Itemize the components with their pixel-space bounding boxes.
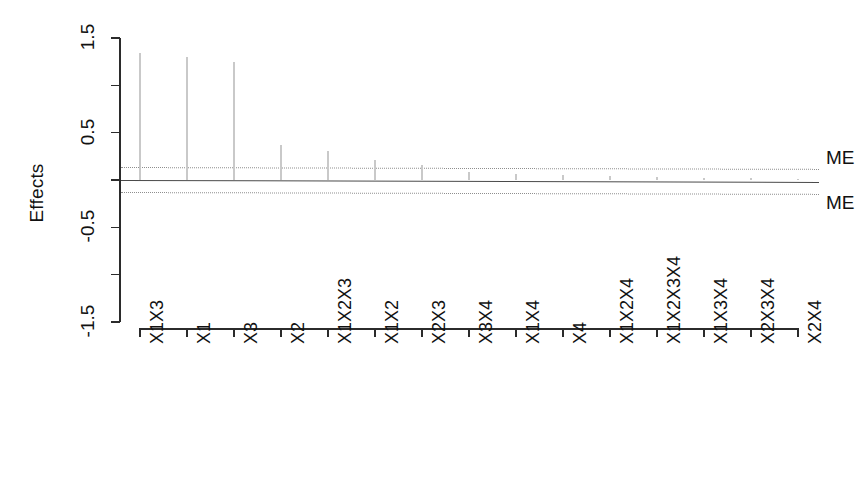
x-axis-tick-label-X4: X4 — [570, 322, 591, 344]
y-axis-tick-label-3: -0.5 — [77, 196, 99, 256]
x-axis-tick-label-X1X2X3X4: X1X2X3X4 — [664, 256, 685, 344]
bar-X1X2X4 — [609, 176, 611, 180]
bar-X4 — [562, 175, 564, 180]
x-axis-tick — [750, 328, 752, 337]
bar-X1X2 — [374, 160, 376, 180]
y-axis-tick — [111, 132, 120, 134]
x-axis-tick — [468, 328, 470, 337]
bar-X1X4 — [515, 174, 517, 180]
me-upper-label: ME — [826, 147, 855, 169]
x-axis-tick — [233, 328, 235, 337]
x-axis-tick — [703, 328, 705, 337]
x-axis-tick — [280, 328, 282, 337]
x-axis-tick — [374, 328, 376, 337]
x-axis-tick-label-X1X2: X1X2 — [382, 300, 403, 344]
y-axis-tick — [111, 179, 120, 181]
bar-X3X4 — [468, 172, 470, 180]
x-axis-tick-label-X3X4: X3X4 — [476, 300, 497, 344]
bar-X1X2X3 — [327, 151, 329, 180]
bar-X2 — [280, 145, 282, 180]
y-axis-tick-label-4: -1.5 — [77, 291, 99, 351]
y-axis-tick — [111, 321, 120, 323]
y-axis-tick — [111, 274, 120, 276]
x-axis-tick — [186, 328, 188, 337]
bar-X1X2X3X4 — [656, 177, 658, 180]
x-axis-tick — [421, 328, 423, 337]
x-axis-tick-label-X2: X2 — [288, 322, 309, 344]
bar-X1X3X4 — [703, 178, 705, 180]
me-lower-threshold-line — [121, 192, 819, 195]
x-axis-tick — [139, 328, 141, 337]
x-axis-tick-label-X1X3: X1X3 — [147, 300, 168, 344]
x-axis-tick-label-X2X3X4: X2X3X4 — [758, 278, 779, 344]
x-axis-tick — [562, 328, 564, 337]
x-axis-tick — [515, 328, 517, 337]
y-axis-title: Effects — [26, 138, 48, 248]
x-axis-tick — [797, 328, 799, 337]
y-axis-tick — [111, 85, 120, 87]
bar-X1 — [186, 57, 188, 180]
x-axis-tick-label-X1X2X4: X1X2X4 — [617, 278, 638, 344]
bar-X1X3 — [139, 53, 141, 180]
x-axis-tick-label-X2X3: X2X3 — [429, 300, 450, 344]
me-lower-label: ME — [826, 192, 855, 214]
x-axis-tick-label-X2X4: X2X4 — [805, 300, 826, 344]
effects-plot-figure: Effects 1.5 0.5 -0.5 -1.5 ME ME X1X3X1X3… — [0, 0, 866, 478]
bar-X2X3 — [421, 165, 423, 180]
me-upper-threshold-line — [121, 167, 819, 170]
bar-X3 — [233, 62, 235, 180]
y-axis-tick — [111, 227, 120, 229]
y-axis-tick-label-2: 0.5 — [77, 102, 99, 162]
x-axis-tick-label-X1X2X3: X1X2X3 — [335, 278, 356, 344]
bar-X2X4 — [797, 179, 799, 180]
y-axis-tick-label-1: 1.5 — [77, 7, 99, 67]
x-axis-tick-label-X3: X3 — [241, 322, 262, 344]
x-axis-tick — [327, 328, 329, 337]
x-axis-tick-label-X1: X1 — [194, 322, 215, 344]
bar-X2X3X4 — [750, 178, 752, 180]
x-axis-tick — [656, 328, 658, 337]
y-axis-tick — [111, 37, 120, 39]
x-axis-tick-label-X1X3X4: X1X3X4 — [711, 278, 732, 344]
x-axis-tick-label-X1X4: X1X4 — [523, 300, 544, 344]
x-axis-tick — [609, 328, 611, 337]
